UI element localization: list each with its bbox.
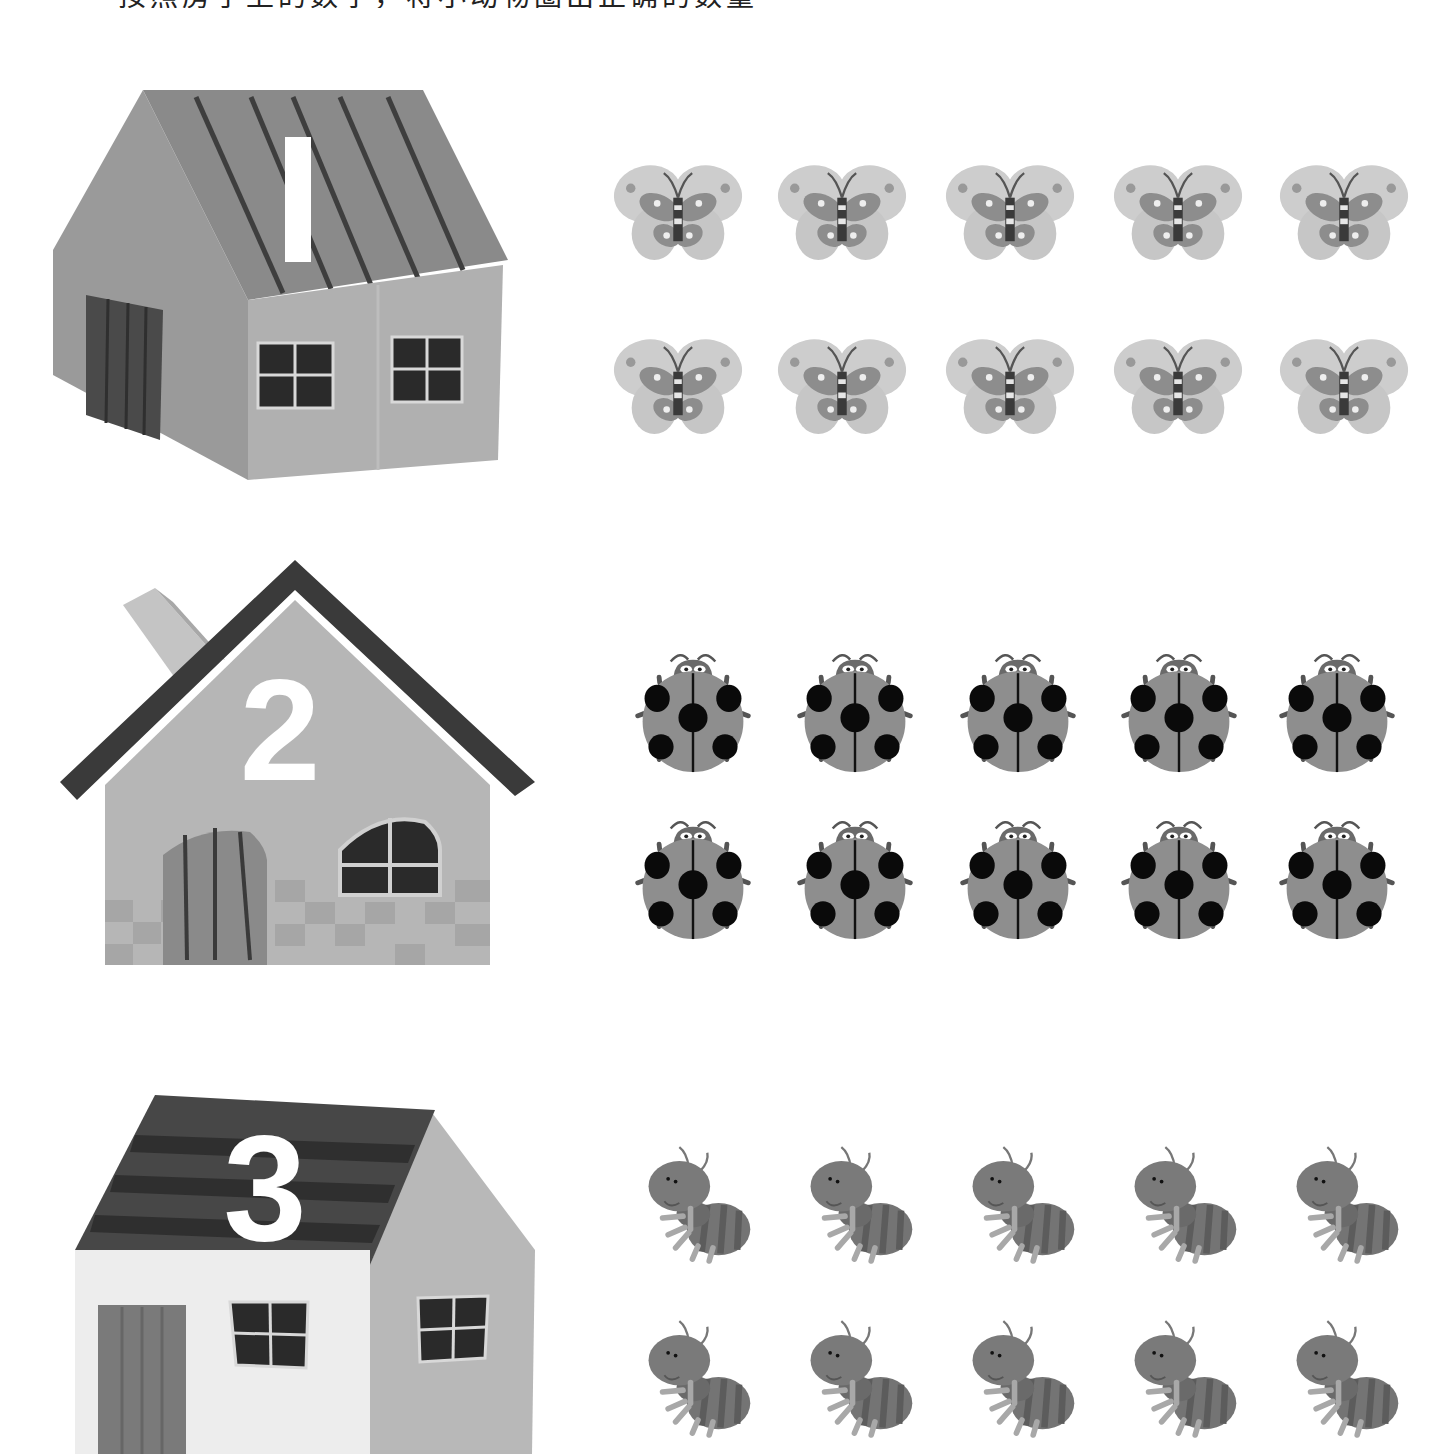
ant-icon[interactable]: [1128, 1314, 1240, 1442]
butterfly-icon[interactable]: [1110, 158, 1246, 262]
ant-icon[interactable]: [804, 1140, 916, 1268]
butterfly-icon[interactable]: [610, 158, 746, 262]
ant-icon[interactable]: [966, 1314, 1078, 1442]
butterfly-icon[interactable]: [1110, 332, 1246, 436]
butterfly-icon[interactable]: [610, 332, 746, 436]
ladybug-icon[interactable]: [792, 648, 918, 774]
house-1: [48, 85, 518, 480]
butterfly-icon[interactable]: [774, 158, 910, 262]
ladybug-icon[interactable]: [630, 815, 756, 941]
ant-icon[interactable]: [1290, 1314, 1402, 1442]
ladybug-icon[interactable]: [1274, 815, 1400, 941]
house-3: 3: [70, 1090, 540, 1454]
instruction-text: 按照房子上的数字，将小动物圈出正确的数量: [118, 0, 1018, 8]
ant-icon[interactable]: [1128, 1140, 1240, 1268]
house-1-number: [285, 137, 311, 262]
butterfly-icon[interactable]: [942, 332, 1078, 436]
house-2: 2: [55, 560, 535, 965]
house-3-number: 3: [223, 1104, 306, 1272]
ant-icon[interactable]: [966, 1140, 1078, 1268]
ant-icon[interactable]: [642, 1140, 754, 1268]
ladybug-icon[interactable]: [792, 815, 918, 941]
butterfly-icon[interactable]: [1276, 158, 1412, 262]
butterfly-icon[interactable]: [1276, 332, 1412, 436]
ladybug-icon[interactable]: [1274, 648, 1400, 774]
house-2-number: 2: [240, 649, 321, 811]
ant-icon[interactable]: [642, 1314, 754, 1442]
butterfly-icon[interactable]: [774, 332, 910, 436]
ladybug-icon[interactable]: [630, 648, 756, 774]
ant-icon[interactable]: [804, 1314, 916, 1442]
butterfly-icon[interactable]: [942, 158, 1078, 262]
ladybug-icon[interactable]: [955, 648, 1081, 774]
ladybug-icon[interactable]: [1116, 815, 1242, 941]
ladybug-icon[interactable]: [955, 815, 1081, 941]
ant-icon[interactable]: [1290, 1140, 1402, 1268]
ladybug-icon[interactable]: [1116, 648, 1242, 774]
